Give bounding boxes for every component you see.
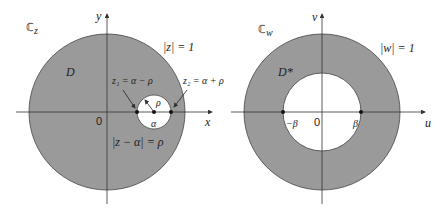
point-z2 — [169, 110, 173, 114]
outer-circle-label-w: |w| = 1 — [380, 41, 415, 55]
point-neg-beta — [281, 110, 285, 114]
z2-label: z₂ = α + ρ — [182, 75, 224, 86]
point-z1 — [135, 110, 139, 114]
w-plane-label: ℂw — [258, 23, 273, 38]
region-D-label: D — [65, 65, 75, 79]
origin-label: 0 — [96, 115, 102, 127]
right-panel-w-plane: ℂw v u 0 D* |w| = 1 −β β — [231, 10, 431, 204]
z1-label: z₁ = α − ρ — [111, 75, 153, 86]
rho-label: ρ — [155, 97, 161, 108]
z-plane-label: ℂz — [26, 21, 38, 36]
neg-beta-label: −β — [286, 118, 298, 129]
v-axis-label: v — [312, 10, 318, 24]
region-Dstar-label: D* — [277, 65, 293, 79]
left-panel-z-plane: ℂz y x 0 D |z| = 1 |z − α| = ρ α ρ z₁ = … — [16, 9, 224, 204]
outer-circle-label: |z| = 1 — [163, 40, 194, 54]
beta-label: β — [352, 118, 358, 129]
origin-label-w: 0 — [314, 116, 320, 128]
x-axis-label: x — [204, 115, 211, 129]
alpha-label: α — [151, 118, 157, 129]
u-axis-label: u — [425, 116, 431, 130]
inner-circle-label: |z − α| = ρ — [112, 135, 164, 149]
point-beta — [359, 110, 363, 114]
diagram-canvas: ℂz y x 0 D |z| = 1 |z − α| = ρ α ρ z₁ = … — [0, 0, 443, 215]
y-axis-label: y — [95, 9, 102, 23]
